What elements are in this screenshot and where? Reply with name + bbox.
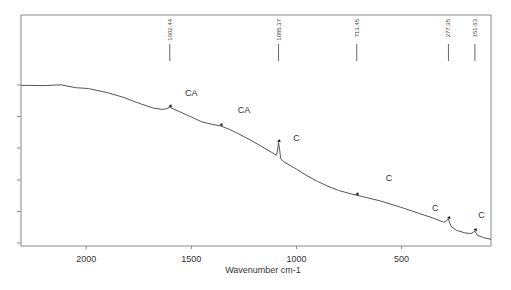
y-axis-ticks [17,85,21,243]
peak-marker-icon [168,104,172,107]
peak-annotation: C [432,203,439,213]
ftir-spectrum-chart: 200015001000500 1602.441085.37713.45277.… [0,0,511,290]
peak-wavenumber-label: 277.35 [445,18,451,37]
peak-wavenumber-label: 1602.44 [167,18,173,40]
x-axis-title: Wavenumber cm-1 [225,265,301,275]
x-tick-label: 1500 [181,254,201,264]
peak-marker-icon [277,139,281,142]
peak-wavenumber-label: 1085.37 [276,18,282,40]
peak-wavenumber-label: 713.45 [354,18,360,37]
peak-annotation: CA [185,88,198,98]
peak-labels: 1602.441085.37713.45277.35151.63 [167,18,478,61]
plot-frame [21,15,491,246]
x-tick-label: 500 [394,254,409,264]
peak-markers [168,104,477,231]
peak-annotation: CA [238,105,251,115]
spectrum-line [21,85,491,240]
annotations: CACACCCC [185,88,485,220]
peak-annotation: C [478,210,485,220]
x-tick-label: 1000 [286,254,306,264]
x-tick-label: 2000 [76,254,96,264]
peak-wavenumber-label: 151.63 [472,18,478,37]
peak-annotation: C [293,133,300,143]
x-axis-ticks: 200015001000500 [76,246,409,264]
peak-annotation: C [386,173,393,183]
